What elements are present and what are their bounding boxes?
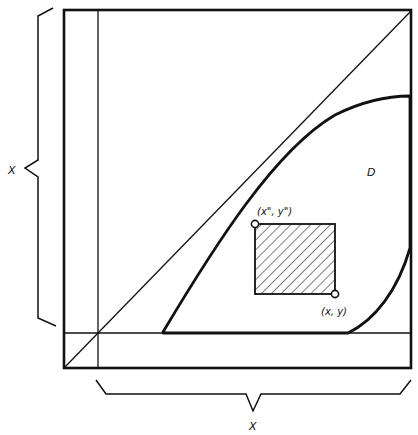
- hatched-rectangle: [255, 224, 335, 294]
- diagram-canvas: (x", y") (x, y) D X X: [0, 0, 418, 435]
- label-left-brace: X: [7, 164, 16, 177]
- diagonal-line: [64, 11, 411, 368]
- label-upper-left-point: (x", y"): [257, 206, 292, 217]
- label-region-d: D: [367, 166, 375, 179]
- point-lower-right: [331, 290, 338, 297]
- left-brace: [25, 8, 56, 326]
- point-upper-left: [251, 220, 258, 227]
- bottom-brace: [96, 380, 411, 411]
- label-bottom-brace: X: [248, 420, 257, 433]
- label-lower-right-point: (x, y): [321, 306, 347, 317]
